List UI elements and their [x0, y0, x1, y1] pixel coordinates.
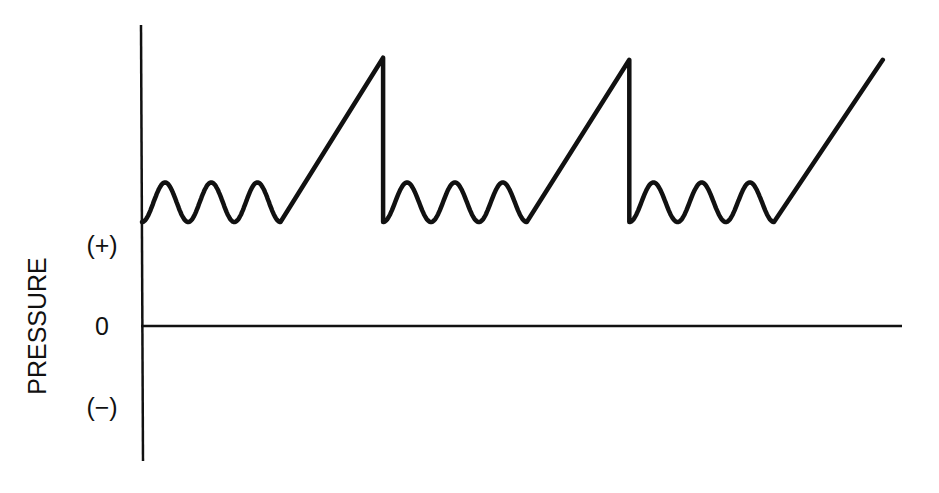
y-tick-label: (−) — [86, 393, 117, 421]
y-axis-label: PRESSURE — [23, 257, 51, 395]
y-axis — [141, 25, 143, 461]
y-tick-label: 0 — [95, 312, 109, 340]
y-tick-label: (+) — [86, 231, 117, 259]
pressure-chart: PRESSURE (+)0(−) — [0, 0, 939, 493]
pressure-waveform — [142, 58, 883, 222]
